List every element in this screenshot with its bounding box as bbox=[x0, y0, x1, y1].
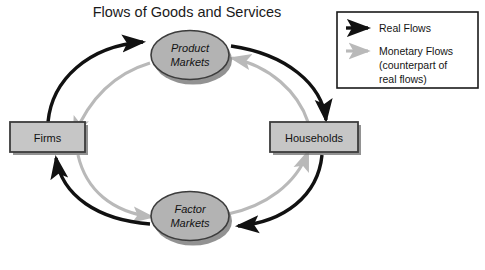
real-arrow-firms-to-product-markets bbox=[48, 42, 143, 122]
legend-label-monetary-flows-line2: (counterpart of bbox=[379, 59, 447, 71]
firms-label: Firms bbox=[34, 132, 62, 144]
factor-markets-label-line1: Factor bbox=[174, 203, 207, 215]
product-markets-label-line1: Product bbox=[171, 42, 210, 54]
product-markets-ellipse bbox=[151, 31, 229, 80]
households-label: Households bbox=[285, 132, 344, 144]
monetary-arrow-households-to-product-markets bbox=[232, 58, 308, 122]
real-arrow-product-markets-to-households bbox=[231, 46, 326, 120]
node-factor-markets: Factor Markets bbox=[151, 192, 232, 246]
flow-diagram-canvas: Flows of Goods and Services bbox=[0, 0, 485, 270]
factor-markets-ellipse bbox=[151, 192, 229, 241]
node-households: Households bbox=[270, 122, 361, 155]
legend: Real Flows Monetary Flows (counterpart o… bbox=[337, 12, 478, 88]
page-title: Flows of Goods and Services bbox=[93, 4, 282, 20]
product-markets-label-line2: Markets bbox=[170, 56, 210, 68]
legend-label-monetary-flows-line3: real flows) bbox=[379, 73, 427, 85]
legend-label-real-flows: Real Flows bbox=[379, 22, 431, 34]
node-product-markets: Product Markets bbox=[151, 31, 232, 85]
factor-markets-label-line2: Markets bbox=[170, 217, 210, 229]
node-firms: Firms bbox=[10, 122, 88, 155]
legend-label-monetary-flows-line1: Monetary Flows bbox=[379, 45, 453, 57]
circular-flow-diagram: Flows of Goods and Services bbox=[0, 0, 485, 270]
